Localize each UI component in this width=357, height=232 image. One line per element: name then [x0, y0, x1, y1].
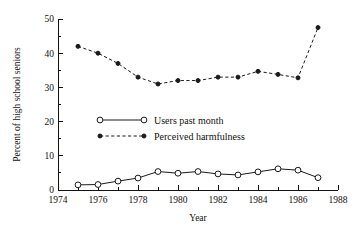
- legend-label-users-past-month: Users past month: [154, 115, 223, 126]
- legend-marker-perceived-harmfulness: [98, 134, 102, 138]
- data-point-series-1: [195, 169, 201, 175]
- x-tick-label: 1988: [329, 195, 348, 205]
- legend-label-perceived-harmfulness: Perceived harmfulness: [154, 131, 245, 142]
- series-line-2: [78, 28, 318, 84]
- x-tick-label: 1986: [289, 195, 308, 205]
- data-point-series-1: [275, 166, 281, 172]
- data-point-series-2: [156, 82, 160, 86]
- data-point-series-1: [75, 182, 81, 188]
- line-chart: 0102030405019741976197819801982198419861…: [0, 0, 357, 232]
- chart-figure: 0102030405019741976197819801982198419861…: [0, 0, 357, 232]
- data-point-series-2: [176, 79, 180, 83]
- legend-marker-users-past-month: [141, 117, 147, 123]
- y-axis-title: Percent of high school seniors: [12, 47, 22, 162]
- y-tick-label: 30: [45, 83, 55, 93]
- y-tick-label: 50: [45, 14, 55, 24]
- data-point-series-2: [216, 75, 220, 79]
- x-tick-label: 1978: [129, 195, 148, 205]
- data-point-series-2: [196, 79, 200, 83]
- data-point-series-2: [236, 75, 240, 79]
- data-point-series-1: [215, 171, 221, 177]
- x-tick-label: 1976: [89, 195, 108, 205]
- data-point-series-2: [276, 72, 280, 76]
- data-point-series-1: [255, 169, 261, 175]
- data-point-series-1: [235, 172, 241, 178]
- data-point-series-2: [256, 69, 260, 73]
- data-point-series-2: [116, 61, 120, 65]
- data-point-series-2: [316, 26, 320, 30]
- y-tick-label: 40: [45, 49, 55, 59]
- data-point-series-1: [315, 175, 321, 181]
- data-point-series-1: [95, 182, 101, 188]
- legend-marker-users-past-month: [97, 117, 103, 123]
- data-point-series-1: [135, 175, 141, 181]
- data-point-series-2: [296, 76, 300, 80]
- legend-marker-perceived-harmfulness: [142, 134, 146, 138]
- x-tick-label: 1984: [249, 195, 268, 205]
- data-point-series-2: [76, 44, 80, 48]
- x-axis-title: Year: [189, 213, 207, 223]
- axis-lines: [58, 19, 338, 190]
- y-tick-label: 10: [45, 151, 55, 161]
- data-point-series-1: [155, 169, 161, 175]
- x-tick-label: 1980: [169, 195, 188, 205]
- data-point-series-2: [136, 75, 140, 79]
- data-point-series-1: [295, 167, 301, 173]
- data-point-series-2: [96, 51, 100, 55]
- data-point-series-1: [175, 170, 181, 176]
- x-tick-label: 1974: [49, 195, 68, 205]
- y-tick-label: 20: [45, 117, 55, 127]
- x-tick-label: 1982: [209, 195, 228, 205]
- y-tick-label: 0: [49, 185, 54, 195]
- data-point-series-1: [115, 178, 121, 184]
